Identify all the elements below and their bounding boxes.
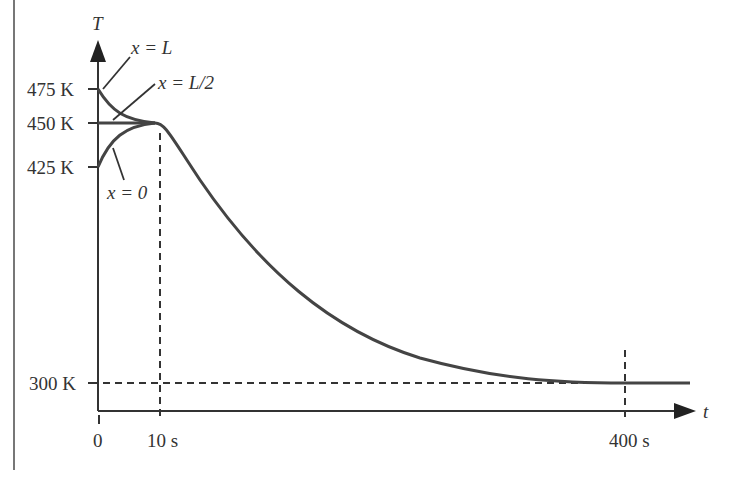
chart-plot [0, 0, 729, 485]
leader-x-L [103, 57, 130, 89]
y-axis-label: T [92, 14, 103, 33]
leader-x-0 [113, 148, 124, 180]
annotation-x-L: x = L [131, 38, 172, 57]
curve-decay [155, 123, 690, 383]
x-axis-arrow [674, 403, 696, 419]
x-axis-label: t [703, 402, 708, 421]
x-tick-400s: 400 s [609, 431, 650, 450]
y-tick-425: 425 K [27, 158, 74, 177]
curve-x-L [98, 89, 155, 123]
annotation-x-0: x = 0 [107, 183, 147, 202]
x-tick-10s: 10 s [147, 431, 178, 450]
annotation-x-L2: x = L/2 [158, 73, 214, 92]
curve-x-0 [98, 123, 155, 167]
y-tick-475: 475 K [27, 80, 74, 99]
y-tick-300: 300 K [29, 374, 76, 393]
leader-x-L2 [113, 84, 155, 120]
y-tick-450: 450 K [27, 114, 74, 133]
x-tick-0: 0 [93, 431, 103, 450]
y-axis-arrow [90, 40, 106, 62]
